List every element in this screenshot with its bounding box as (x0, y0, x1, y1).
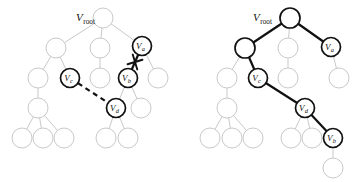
tree-node (302, 128, 322, 148)
node-circle (28, 98, 48, 118)
node-circle (46, 38, 66, 58)
node-circle (12, 128, 32, 148)
after-reconnection-tree: VaVcVdVbVroot (200, 8, 349, 178)
tree-node (200, 128, 220, 148)
cut-stroke (128, 55, 143, 70)
node-circle (278, 68, 298, 88)
tree-node-vd: Vd (296, 99, 315, 118)
node-circle (200, 128, 220, 148)
tree-node (323, 158, 343, 178)
tree-node-vb: Vb (119, 69, 138, 88)
node-circle (93, 8, 113, 28)
tree-node (278, 38, 298, 58)
tree-node (93, 8, 113, 28)
before-reconnection-tree: VaVcVbVdVroot (12, 8, 168, 148)
tree-node-vc: Vc (61, 69, 80, 88)
tree-node-va: Va (322, 38, 341, 57)
node-circle (90, 38, 110, 58)
tree-node (278, 68, 298, 88)
tree-node (46, 38, 66, 58)
node-circle (33, 128, 53, 148)
tree-node (235, 38, 255, 58)
node-circle-highlighted (235, 38, 255, 58)
node-circle (243, 128, 263, 148)
tree-node (12, 128, 32, 148)
tree-node-vd: Vd (107, 99, 126, 118)
tree-node-vc: Vc (249, 69, 268, 88)
tree-node (222, 128, 242, 148)
root-node-label: Vroot (76, 11, 95, 26)
node-circle (222, 128, 242, 148)
tree-node (217, 98, 237, 118)
node-circle (90, 68, 110, 88)
tree-node (90, 68, 110, 88)
tree-node (33, 128, 53, 148)
node-circle (217, 68, 237, 88)
node-circle (323, 158, 343, 178)
tree-reconnection-figure: VaVcVbVdVrootVaVcVdVbVroot (0, 0, 361, 182)
node-circle (54, 128, 74, 148)
edge-cut-mark (128, 55, 143, 70)
root-node-label: Vroot (253, 11, 272, 26)
node-circle (302, 128, 322, 148)
node-circle (148, 68, 168, 88)
node-circle (131, 98, 151, 118)
node-circle-highlighted (280, 8, 300, 28)
tree-node (280, 8, 300, 28)
tree-node (28, 98, 48, 118)
tree-node (281, 128, 301, 148)
tree-node-va: Va (133, 37, 152, 56)
figure-canvas: VaVcVbVdVrootVaVcVdVbVroot (0, 0, 361, 182)
tree-node (243, 128, 263, 148)
node-circle (329, 68, 349, 88)
tree-node (28, 68, 48, 88)
tree-node (118, 128, 138, 148)
tree-node (329, 68, 349, 88)
tree-node (217, 68, 237, 88)
node-circle (278, 38, 298, 58)
tree-node (96, 128, 116, 148)
node-circle (217, 98, 237, 118)
node-circle (96, 128, 116, 148)
node-circle (118, 128, 138, 148)
tree-node-vb: Vb (324, 129, 343, 148)
tree-node (90, 38, 110, 58)
node-circle (281, 128, 301, 148)
node-circle (28, 68, 48, 88)
tree-node (148, 68, 168, 88)
tree-node (131, 98, 151, 118)
tree-node (54, 128, 74, 148)
